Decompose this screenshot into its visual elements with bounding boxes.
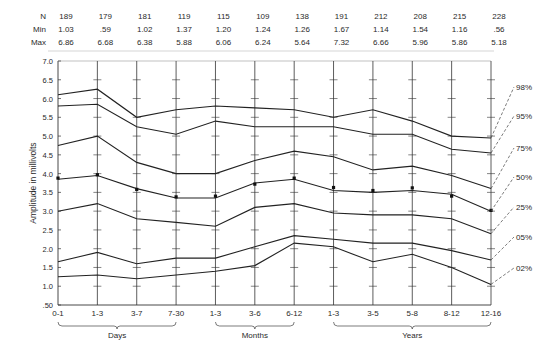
stats-cell: 6.68 bbox=[98, 38, 114, 47]
x-axis-groups: DaysMonthsYears bbox=[58, 322, 491, 340]
stats-cell: 115 bbox=[217, 12, 230, 21]
legend-leader-line bbox=[491, 268, 514, 284]
stats-cell: 6.66 bbox=[373, 38, 389, 47]
x-tick-label: 0-1 bbox=[52, 309, 64, 318]
x-tick-label: 7-30 bbox=[168, 309, 185, 318]
stats-cell: 189 bbox=[59, 12, 73, 21]
stats-row-label: Max bbox=[31, 38, 46, 47]
legend-label: 05% bbox=[516, 233, 532, 242]
x-tick-label: 12-16 bbox=[481, 309, 502, 318]
stats-cell: 6.86 bbox=[58, 38, 74, 47]
series-line-02pct bbox=[58, 243, 491, 284]
stats-cell: 109 bbox=[256, 12, 270, 21]
stats-cell: 5.18 bbox=[491, 38, 507, 47]
stats-cell: 1.26 bbox=[294, 25, 310, 34]
x-tick-label: 1-3 bbox=[328, 309, 340, 318]
stats-cell: 1.54 bbox=[412, 25, 428, 34]
series-line-98pct bbox=[58, 89, 491, 138]
y-tick-label: 4.5 bbox=[43, 151, 53, 160]
group-label-years: Years bbox=[402, 331, 422, 340]
mean-marker bbox=[96, 173, 99, 176]
x-tick-label: 3-7 bbox=[131, 309, 143, 318]
mean-marker bbox=[332, 186, 335, 189]
mean-marker bbox=[56, 177, 59, 180]
legend-label: 75% bbox=[516, 144, 532, 153]
stats-row-label: Min bbox=[33, 25, 46, 34]
y-tick-label: 5.0 bbox=[43, 132, 53, 141]
stats-cell: .59 bbox=[100, 25, 112, 34]
legend-label: 50% bbox=[516, 173, 532, 182]
mean-marker bbox=[293, 177, 296, 180]
x-tick-label: 3-5 bbox=[367, 309, 379, 318]
y-tick-label: 4.0 bbox=[43, 170, 53, 179]
stats-cell: 7.32 bbox=[334, 38, 350, 47]
x-tick-label: 1-3 bbox=[210, 309, 222, 318]
x-tick-label: 1-3 bbox=[92, 309, 104, 318]
y-axis-label: Amplitude in millivolts bbox=[28, 142, 38, 223]
stats-cell: 5.88 bbox=[176, 38, 192, 47]
stats-cell: 181 bbox=[138, 12, 152, 21]
legend-leader-line bbox=[491, 87, 514, 138]
mean-markers bbox=[56, 173, 492, 212]
legend-leader-line bbox=[491, 148, 514, 189]
mean-marker bbox=[450, 195, 453, 198]
y-tick-label: 2.5 bbox=[43, 226, 53, 235]
group-brace bbox=[334, 322, 491, 329]
legend-leader-line bbox=[491, 116, 514, 153]
stats-cell: 1.02 bbox=[137, 25, 153, 34]
y-tick-label: 6.5 bbox=[43, 76, 53, 85]
stats-cell: 1.20 bbox=[216, 25, 232, 34]
stats-cell: 215 bbox=[453, 12, 467, 21]
series-lines bbox=[58, 89, 491, 284]
stats-cell: 138 bbox=[296, 12, 310, 21]
y-tick-label: 2.0 bbox=[43, 245, 53, 254]
percentile-chart: N189179181119115109138191212208215228Min… bbox=[0, 0, 557, 343]
stats-cell: 212 bbox=[374, 12, 388, 21]
axes: 7.06.56.05.55.04.54.03.53.02.52.01.51.0.… bbox=[43, 57, 502, 318]
legend-label: 02% bbox=[516, 264, 532, 273]
x-tick-label: 8-12 bbox=[444, 309, 461, 318]
stats-cell: 6.06 bbox=[216, 38, 232, 47]
x-tick-label: 3-6 bbox=[249, 309, 261, 318]
stats-table: N189179181119115109138191212208215228Min… bbox=[31, 12, 507, 51]
stats-cell: 6.24 bbox=[255, 38, 271, 47]
group-brace bbox=[58, 322, 176, 329]
x-tick-label: 6-12 bbox=[286, 309, 303, 318]
mean-marker bbox=[135, 188, 138, 191]
x-tick-label: 5-8 bbox=[406, 309, 418, 318]
stats-cell: 208 bbox=[414, 12, 428, 21]
stats-cell: 228 bbox=[492, 12, 506, 21]
series-line-25pct bbox=[58, 204, 491, 234]
stats-cell: 1.14 bbox=[373, 25, 389, 34]
y-tick-label: 5.5 bbox=[43, 113, 53, 122]
stats-cell: 119 bbox=[178, 12, 191, 21]
y-tick-label: 1.0 bbox=[43, 282, 53, 291]
stats-cell: 1.67 bbox=[334, 25, 350, 34]
stats-cell: 5.86 bbox=[452, 38, 468, 47]
stats-row-label: N bbox=[40, 12, 46, 21]
legend: 98%95%75%50%25%05%02% bbox=[491, 83, 532, 284]
mean-marker bbox=[371, 189, 374, 192]
mean-marker bbox=[214, 195, 217, 198]
y-tick-label: 3.0 bbox=[43, 207, 53, 216]
legend-label: 98% bbox=[516, 83, 532, 92]
y-tick-label: 7.0 bbox=[43, 57, 53, 66]
group-brace bbox=[215, 322, 294, 329]
mean-marker bbox=[411, 186, 414, 189]
group-label-days: Days bbox=[108, 331, 126, 340]
stats-cell: 1.03 bbox=[58, 25, 74, 34]
legend-label: 95% bbox=[516, 112, 532, 121]
mean-marker bbox=[253, 183, 256, 186]
mean-marker bbox=[174, 195, 177, 198]
y-tick-label: 3.5 bbox=[43, 188, 53, 197]
series-line-95pct bbox=[58, 104, 491, 153]
stats-cell: 191 bbox=[335, 12, 349, 21]
group-label-months: Months bbox=[242, 331, 268, 340]
stats-cell: 5.64 bbox=[294, 38, 310, 47]
stats-cell: 179 bbox=[99, 12, 113, 21]
stats-cell: 1.24 bbox=[255, 25, 271, 34]
stats-cell: 5.96 bbox=[412, 38, 428, 47]
y-tick-label: 6.0 bbox=[43, 95, 53, 104]
stats-cell: 1.16 bbox=[452, 25, 468, 34]
stats-cell: 1.37 bbox=[176, 25, 192, 34]
